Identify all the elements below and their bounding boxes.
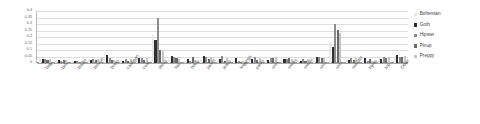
y-axis-tick-label: 0.1 <box>27 48 32 52</box>
bar-cluster <box>376 11 392 63</box>
bar-cluster <box>263 11 279 63</box>
x-axis-tick: heels <box>182 64 198 122</box>
x-axis-tick: skirt <box>327 64 343 122</box>
x-axis-tick-label: hair <box>174 62 182 70</box>
legend-label: Preppy <box>420 54 435 59</box>
y-axis-tick-label: 0.2 <box>27 35 32 39</box>
y-axis-tick-label: 0.05 <box>25 55 32 59</box>
legend-item[interactable]: Pinup <box>414 41 480 52</box>
legend-label: Pinup <box>420 44 432 49</box>
bar-cluster <box>360 11 376 63</box>
y-axis-tick-label: 0.3 <box>27 22 32 26</box>
y-axis-tick-label: 0.35 <box>25 16 32 20</box>
x-axis-tick: boots <box>102 64 118 122</box>
x-axis-tick: leggings <box>231 64 247 122</box>
y-axis-tick-label: 0.25 <box>25 29 32 33</box>
bar-cluster <box>279 11 295 63</box>
legend-swatch <box>414 13 417 16</box>
legend-label: Bohemian <box>420 12 441 17</box>
bar-cluster <box>85 11 101 63</box>
bar-cluster <box>198 11 214 63</box>
x-axis-tick: hair <box>166 64 182 122</box>
x-axis-tick: pants <box>247 64 263 122</box>
x-axis-tick: bag <box>37 64 53 122</box>
legend: BohemianGothHipsterPinupPreppy <box>414 9 480 62</box>
y-axis-labels: 0.40.350.30.250.20.150.10.050 <box>0 11 34 63</box>
legend-item[interactable]: Hipster <box>414 30 480 41</box>
y-axis-tick-label: 0.4 <box>27 9 32 13</box>
legend-swatch <box>414 34 417 37</box>
x-axis-tick-label: bag <box>45 62 53 70</box>
bar-cluster <box>311 11 327 63</box>
bar-chart: 0.40.350.30.250.20.150.10.050 bagbeltbla… <box>0 0 480 124</box>
legend-item[interactable]: Bohemian <box>414 9 480 20</box>
bar-cluster <box>69 11 85 63</box>
legend-label: Hipster <box>420 33 435 38</box>
x-axis-tick: jacket <box>198 64 214 122</box>
x-axis-tick: shoes <box>279 64 295 122</box>
x-axis-tick: jeans <box>214 64 230 122</box>
bar-cluster <box>182 11 198 63</box>
x-axis-tick: blouse <box>85 64 101 122</box>
x-axis-tick: shirt <box>263 64 279 122</box>
legend-swatch <box>414 23 417 26</box>
bar-cluster <box>392 11 408 63</box>
bar-clusters <box>37 11 408 63</box>
x-axis-tick: cardigan <box>118 64 134 122</box>
bar-cluster <box>327 11 343 63</box>
bar-cluster <box>118 11 134 63</box>
bar-cluster <box>231 11 247 63</box>
bar-cluster <box>214 11 230 63</box>
x-axis-tick: skin <box>311 64 327 122</box>
y-axis-tick-label: 0.15 <box>25 42 32 46</box>
x-axis-tick: tights <box>360 64 376 122</box>
bar-cluster <box>166 11 182 63</box>
bar-cluster <box>343 11 359 63</box>
legend-swatch <box>414 44 417 47</box>
bar-cluster <box>53 11 69 63</box>
bar <box>339 33 341 63</box>
x-axis-tick-label: belt <box>61 62 69 70</box>
bar-cluster <box>102 11 118 63</box>
bar-cluster <box>37 11 53 63</box>
x-axis-labels: bagbeltblazerblousebootscardigancoatdres… <box>37 64 408 122</box>
x-axis-tick: coat <box>134 64 150 122</box>
bar-cluster <box>295 11 311 63</box>
legend-item[interactable]: Preppy <box>414 51 480 62</box>
x-axis-tick: Other <box>392 64 408 122</box>
x-axis-tick: top <box>376 64 392 122</box>
legend-label: Goth <box>420 23 430 28</box>
x-axis-tick: shorts <box>295 64 311 122</box>
x-axis-tick: dress <box>150 64 166 122</box>
y-axis-tick-label: 0 <box>30 61 32 65</box>
legend-swatch <box>414 55 417 58</box>
legend-item[interactable]: Goth <box>414 20 480 31</box>
x-axis-tick: sweater <box>343 64 359 122</box>
bar-cluster <box>150 11 166 63</box>
x-axis-tick: belt <box>53 64 69 122</box>
x-axis-tick: blazer <box>69 64 85 122</box>
x-axis-tick-label: top <box>384 63 391 71</box>
